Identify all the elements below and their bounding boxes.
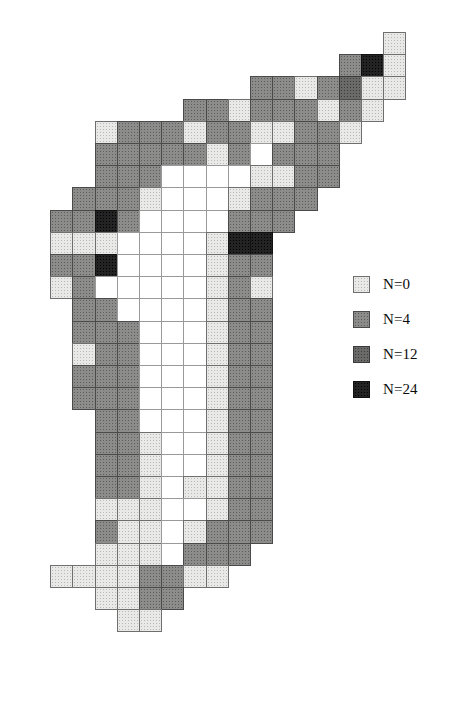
map-cell [317, 165, 340, 188]
map-cell [250, 210, 273, 233]
map-cell [95, 276, 118, 299]
map-cell [50, 210, 73, 233]
map-cell [161, 565, 184, 588]
map-cell [317, 121, 340, 144]
map-cell [206, 165, 229, 188]
map-cell [161, 454, 184, 477]
map-cell [272, 143, 295, 166]
map-cell [272, 121, 295, 144]
map-cell [117, 121, 140, 144]
map-cell [95, 387, 118, 410]
map-cell [250, 276, 273, 299]
map-cell [117, 321, 140, 344]
map-cell [228, 343, 251, 366]
map-cell [250, 454, 273, 477]
map-cell [95, 165, 118, 188]
map-cell [139, 609, 162, 632]
map-cell [250, 143, 273, 166]
map-cell [139, 210, 162, 233]
map-cell [228, 543, 251, 566]
map-cell [139, 498, 162, 521]
map-cell [72, 254, 95, 277]
map-cell [117, 409, 140, 432]
map-cell [161, 143, 184, 166]
map-cell [161, 187, 184, 210]
map-cell [206, 343, 229, 366]
figure-canvas: N=0N=4N=12N=24 [0, 0, 452, 701]
map-cell [183, 210, 206, 233]
map-cell [117, 520, 140, 543]
map-cell [95, 520, 118, 543]
map-cell [117, 565, 140, 588]
map-cell [95, 210, 118, 233]
map-cell [183, 454, 206, 477]
map-cell [72, 232, 95, 255]
map-cell [95, 454, 118, 477]
legend-item: N=0 [353, 276, 410, 293]
map-cell [250, 121, 273, 144]
map-cell [117, 454, 140, 477]
map-cell [161, 587, 184, 610]
map-cell [183, 432, 206, 455]
map-cell [50, 254, 73, 277]
map-cell [139, 587, 162, 610]
map-cell [139, 121, 162, 144]
map-cell [161, 343, 184, 366]
map-cell [72, 187, 95, 210]
legend-swatch-12 [353, 346, 370, 363]
map-cell [183, 232, 206, 255]
map-cell [317, 99, 340, 122]
map-cell [250, 321, 273, 344]
map-cell [228, 454, 251, 477]
map-cell [272, 187, 295, 210]
map-cell [139, 543, 162, 566]
map-cell [95, 498, 118, 521]
map-cell [95, 254, 118, 277]
map-cell [183, 387, 206, 410]
map-cell [117, 254, 140, 277]
map-cell [206, 365, 229, 388]
map-cell [139, 298, 162, 321]
map-cell [72, 343, 95, 366]
map-cell [228, 143, 251, 166]
map-cell [139, 565, 162, 588]
map-cell [161, 520, 184, 543]
map-cell [339, 99, 362, 122]
map-cell [250, 165, 273, 188]
map-cell [183, 520, 206, 543]
map-cell [206, 476, 229, 499]
map-cell [117, 587, 140, 610]
map-cell [139, 520, 162, 543]
map-cell [339, 54, 362, 77]
map-cell [72, 321, 95, 344]
map-cell [206, 409, 229, 432]
map-cell [161, 432, 184, 455]
map-cell [206, 143, 229, 166]
map-cell [139, 165, 162, 188]
map-cell [50, 565, 73, 588]
map-cell [183, 187, 206, 210]
map-cell [228, 409, 251, 432]
map-cell [228, 210, 251, 233]
map-cell [95, 298, 118, 321]
map-cell [361, 54, 384, 77]
map-cell [72, 387, 95, 410]
map-cell [161, 543, 184, 566]
legend-swatch-0 [353, 276, 370, 293]
map-cell [161, 121, 184, 144]
map-cell [206, 565, 229, 588]
map-cell [72, 365, 95, 388]
map-cell [183, 543, 206, 566]
map-cell [117, 343, 140, 366]
map-cell [250, 254, 273, 277]
map-cell [161, 165, 184, 188]
map-cell [95, 565, 118, 588]
map-cell [183, 409, 206, 432]
map-cell [72, 210, 95, 233]
map-cell [294, 121, 317, 144]
map-cell [183, 476, 206, 499]
map-cell [383, 76, 406, 99]
map-cell [139, 321, 162, 344]
map-cell [250, 498, 273, 521]
map-cell [272, 99, 295, 122]
